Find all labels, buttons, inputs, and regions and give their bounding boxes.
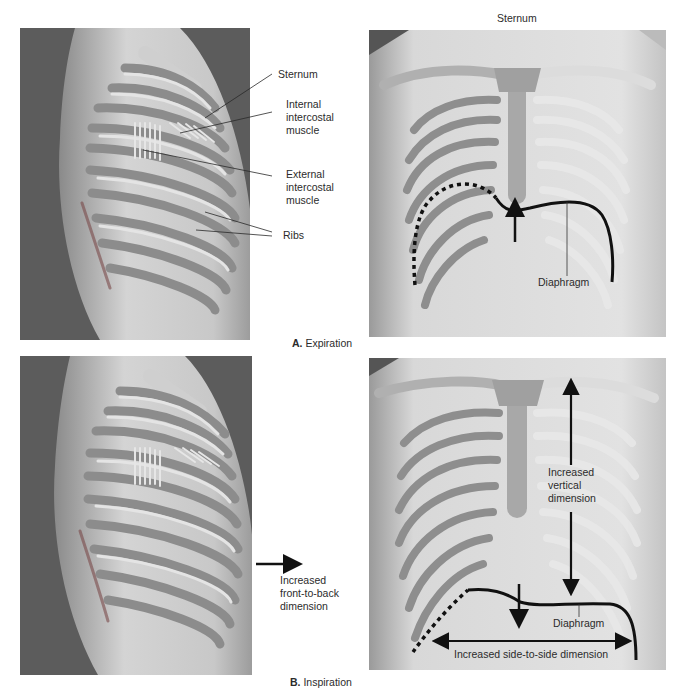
label-internal-intercostal-muscle: Internal intercostal muscle bbox=[286, 98, 334, 137]
caption-inspiration: B. Inspiration bbox=[290, 676, 352, 688]
expiration-frontal-ribcage-image bbox=[369, 30, 666, 337]
label-increased-vertical-dimension: Increased vertical dimension bbox=[548, 466, 596, 505]
label-ribs: Ribs bbox=[283, 229, 304, 242]
caption-expiration: A. Expiration bbox=[292, 337, 352, 349]
label-sternum-frontal: Sternum bbox=[497, 12, 537, 25]
label-increased-side-to-side-dimension: Increased side-to-side dimension bbox=[454, 648, 608, 661]
label-external-intercostal-muscle: External intercostal muscle bbox=[286, 168, 334, 207]
label-increased-front-to-back-dimension: Increased front-to-back dimension bbox=[280, 574, 339, 613]
label-sternum-lateral: Sternum bbox=[278, 68, 318, 81]
inspiration-lateral-ribcage-image bbox=[20, 356, 252, 675]
expiration-lateral-ribcage-image bbox=[20, 28, 250, 340]
label-diaphragm-expiration: Diaphragm bbox=[538, 276, 589, 289]
label-diaphragm-inspiration: Diaphragm bbox=[553, 617, 604, 630]
inspiration-frontal-ribcage-image bbox=[369, 358, 666, 670]
